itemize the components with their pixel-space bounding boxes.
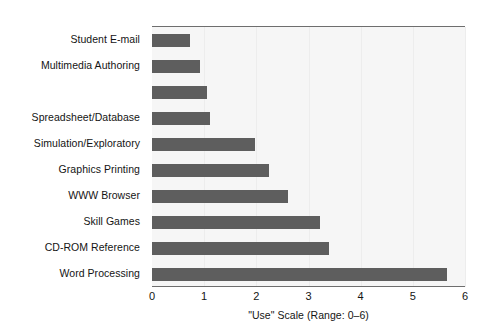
x-tick-label: 5 — [398, 290, 428, 302]
x-tick-label: 0 — [137, 290, 167, 302]
category-label-column: Student E-mailMultimedia AuthoringSpread… — [0, 26, 146, 286]
category-label: Student E-mail — [70, 33, 140, 46]
bar — [152, 164, 269, 177]
x-axis-line — [152, 286, 465, 287]
category-label: Spreadsheet/Database — [32, 111, 140, 124]
bar — [152, 268, 447, 281]
category-label: Word Processing — [59, 267, 140, 280]
category-label: Skill Games — [83, 215, 140, 228]
category-label: Graphics Printing — [59, 163, 140, 176]
bar — [152, 34, 190, 47]
x-tick-label: 2 — [241, 290, 271, 302]
bar-chart: Student E-mailMultimedia AuthoringSpread… — [0, 0, 483, 334]
x-tick-label: 4 — [346, 290, 376, 302]
bar — [152, 112, 210, 125]
x-tick-label: 1 — [189, 290, 219, 302]
x-tick-label: 6 — [450, 290, 480, 302]
bar — [152, 86, 207, 99]
category-label: Multimedia Authoring — [41, 59, 140, 72]
bar — [152, 138, 255, 151]
gridline — [361, 27, 362, 287]
category-label: WWW Browser — [68, 189, 140, 202]
category-label: Simulation/Exploratory — [34, 137, 140, 150]
gridline — [465, 27, 466, 287]
bar — [152, 190, 288, 203]
bar — [152, 60, 200, 73]
bar — [152, 242, 329, 255]
x-tick-label: 3 — [294, 290, 324, 302]
category-label: CD-ROM Reference — [45, 241, 140, 254]
gridline — [413, 27, 414, 287]
plot-area — [152, 26, 465, 287]
x-axis-title: "Use" Scale (Range: 0–6) — [152, 309, 465, 321]
bar — [152, 216, 320, 229]
